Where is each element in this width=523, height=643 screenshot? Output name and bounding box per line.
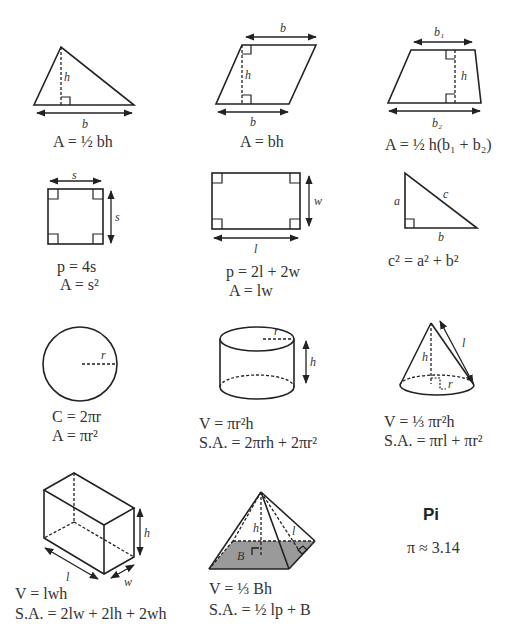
rectangle-figure — [212, 173, 309, 238]
triangle-base-label: b — [82, 118, 88, 130]
circle-radius-label: r — [101, 349, 106, 361]
right-triangle-b-label: b — [438, 231, 444, 243]
prism-length-label: l — [66, 571, 69, 583]
cone-volume-formula: V = ⅓ πr²h — [384, 414, 455, 430]
rectangular-prism-figure — [44, 473, 140, 579]
prism-width-label: w — [124, 576, 132, 588]
cone-height-label: h — [422, 351, 428, 363]
square-perimeter-formula: p = 4s — [57, 259, 96, 275]
triangle-area-formula: A = ½ bh — [53, 134, 113, 150]
parallelogram-base-label: b — [250, 116, 256, 128]
trapezoid-area-formula: A = ½ h(b₁ + b₂) — [385, 137, 492, 153]
pyramid-height-label: h — [253, 522, 259, 534]
pyramid-surface-area-formula: S.A. = ½ lp + B — [209, 602, 311, 618]
trapezoid-top-label: b₁ — [434, 26, 444, 38]
parallelogram-area-formula: A = bh — [240, 134, 284, 150]
parallelogram-top-label: b — [280, 22, 286, 34]
circle-figure — [43, 327, 117, 401]
trapezoid-height-label: h — [461, 70, 467, 82]
pyramid-slant-label: l — [292, 525, 295, 537]
prism-height-label: h — [144, 527, 150, 539]
pi-title: Pi — [423, 505, 439, 525]
cone-radius-label: r — [448, 378, 453, 390]
pyramid-figure — [209, 492, 315, 569]
prism-surface-area-formula: S.A. = 2lw + 2lh + 2wh — [15, 606, 167, 622]
parallelogram-height-label: h — [245, 69, 251, 81]
circle-circumference-formula: C = 2πr — [52, 409, 101, 425]
pythagorean-formula: c² = a² + b² — [388, 253, 459, 269]
triangle-height-label: h — [64, 71, 70, 83]
parallelogram-figure — [216, 37, 316, 112]
cone-figure — [400, 321, 474, 395]
right-triangle-a-label: a — [394, 195, 400, 207]
square-figure — [48, 181, 111, 244]
rectangle-length-label: l — [254, 243, 257, 255]
square-area-formula: A = s² — [60, 277, 99, 293]
pyramid-volume-formula: V = ⅓ Bh — [209, 581, 272, 597]
cone-surface-area-formula: S.A. = πrl + πr² — [384, 433, 483, 449]
cylinder-volume-formula: V = πr²h — [199, 416, 254, 432]
cylinder-height-label: h — [310, 356, 316, 368]
square-side-label: s — [115, 211, 120, 223]
cylinder-figure — [220, 327, 306, 399]
rectangle-width-label: w — [314, 195, 322, 207]
right-triangle-figure — [405, 173, 477, 228]
square-top-label: s — [72, 169, 77, 181]
pyramid-base-label: B — [237, 550, 244, 562]
cone-slant-label: l — [462, 337, 465, 349]
pi-value-formula: π ≈ 3.14 — [407, 540, 460, 556]
rectangle-area-formula: A = lw — [229, 283, 273, 299]
right-triangle-c-label: c — [443, 188, 448, 200]
prism-volume-formula: V = lwh — [15, 586, 67, 602]
rectangle-perimeter-formula: p = 2l + 2w — [226, 264, 300, 280]
circle-area-formula: A = πr² — [52, 428, 98, 444]
cylinder-surface-area-formula: S.A. = 2πrh + 2πr² — [199, 435, 317, 451]
triangle-figure — [34, 47, 134, 113]
cylinder-radius-label: r — [274, 325, 279, 337]
trapezoid-figure — [388, 42, 481, 111]
trapezoid-base-label: b₂ — [432, 117, 442, 129]
